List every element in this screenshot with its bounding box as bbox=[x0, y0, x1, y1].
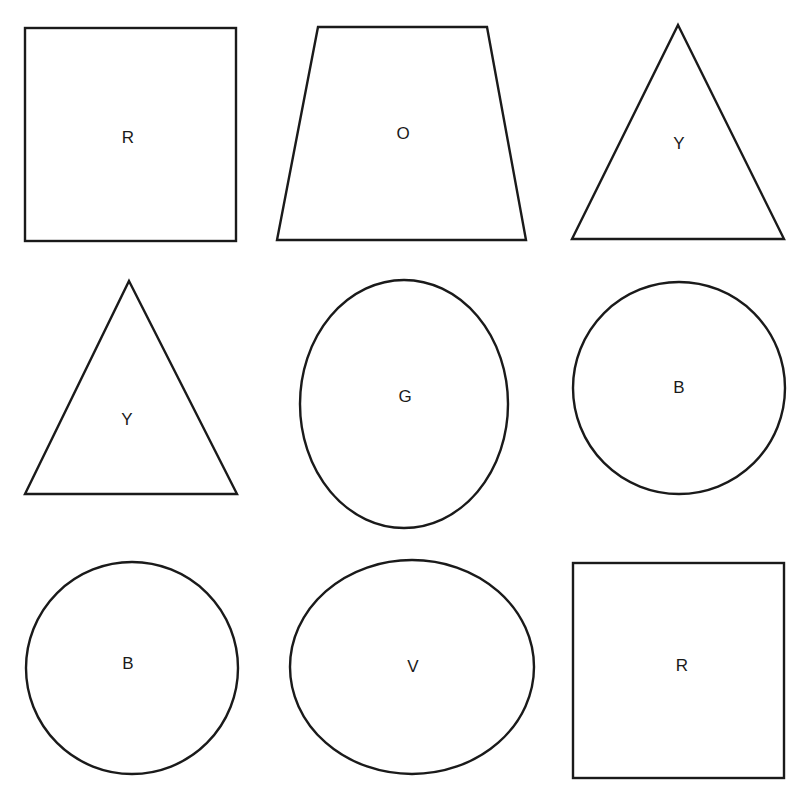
shape-ellipse-g: G bbox=[300, 280, 508, 528]
shape-ellipse-v: V bbox=[290, 560, 534, 774]
shape-triangle-y-1: Y bbox=[572, 25, 784, 239]
shape-label: B bbox=[122, 654, 133, 673]
shape-label: R bbox=[676, 656, 688, 675]
shape-label: V bbox=[407, 657, 419, 676]
shape-square-r-2: R bbox=[573, 563, 784, 778]
triangle-outline bbox=[572, 25, 784, 239]
shape-circle-b-2: B bbox=[26, 562, 238, 774]
shape-circle-b-1: B bbox=[573, 282, 785, 494]
shape-triangle-y-2: Y bbox=[25, 281, 237, 494]
shapes-diagram: R O Y Y G B B V R bbox=[0, 0, 812, 804]
shape-label: B bbox=[673, 378, 684, 397]
shape-label: Y bbox=[121, 410, 132, 429]
shape-label: Y bbox=[673, 134, 684, 153]
shape-label: G bbox=[398, 387, 411, 406]
shape-trapezoid-o: O bbox=[277, 27, 526, 240]
shape-label: R bbox=[122, 128, 134, 147]
shape-square-r-1: R bbox=[25, 28, 236, 241]
triangle-outline bbox=[25, 281, 237, 494]
shape-label: O bbox=[396, 124, 409, 143]
